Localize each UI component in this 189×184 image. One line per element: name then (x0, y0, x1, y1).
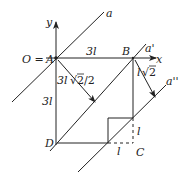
label-point-a: A (45, 53, 54, 66)
label-dist-b-a-double-prime-coef: l (137, 66, 141, 79)
label-x-axis: x (156, 53, 163, 66)
label-line-a-prime: a' (145, 42, 155, 55)
label-dist-a-a-prime-coef: 3l (57, 74, 68, 87)
line-a-prime (50, 44, 146, 151)
label-line-a-double-prime: a'' (166, 75, 179, 88)
label-o-equals: O = (22, 53, 44, 66)
label-y-axis: y (45, 16, 53, 29)
geometry-diagram: y x a a' a'' O = A B D C 3l 3l 3l √ 2/2 … (0, 0, 189, 184)
label-corner-vertical: l (137, 125, 141, 138)
label-point-d: D (44, 137, 54, 150)
point-b-dot (132, 57, 134, 59)
label-point-b: B (121, 45, 130, 58)
label-line-a: a (106, 7, 113, 20)
point-a-dot (54, 56, 58, 60)
label-point-c: C (136, 146, 145, 159)
label-dist-a-a-prime-rest: 2/2 (77, 74, 95, 87)
label-ad-length: 3l (42, 95, 53, 108)
label-corner-horizontal: l (117, 145, 121, 158)
label-ab-length: 3l (86, 45, 97, 58)
label-dist-b-a-double-prime-rest: 2 (149, 66, 156, 79)
